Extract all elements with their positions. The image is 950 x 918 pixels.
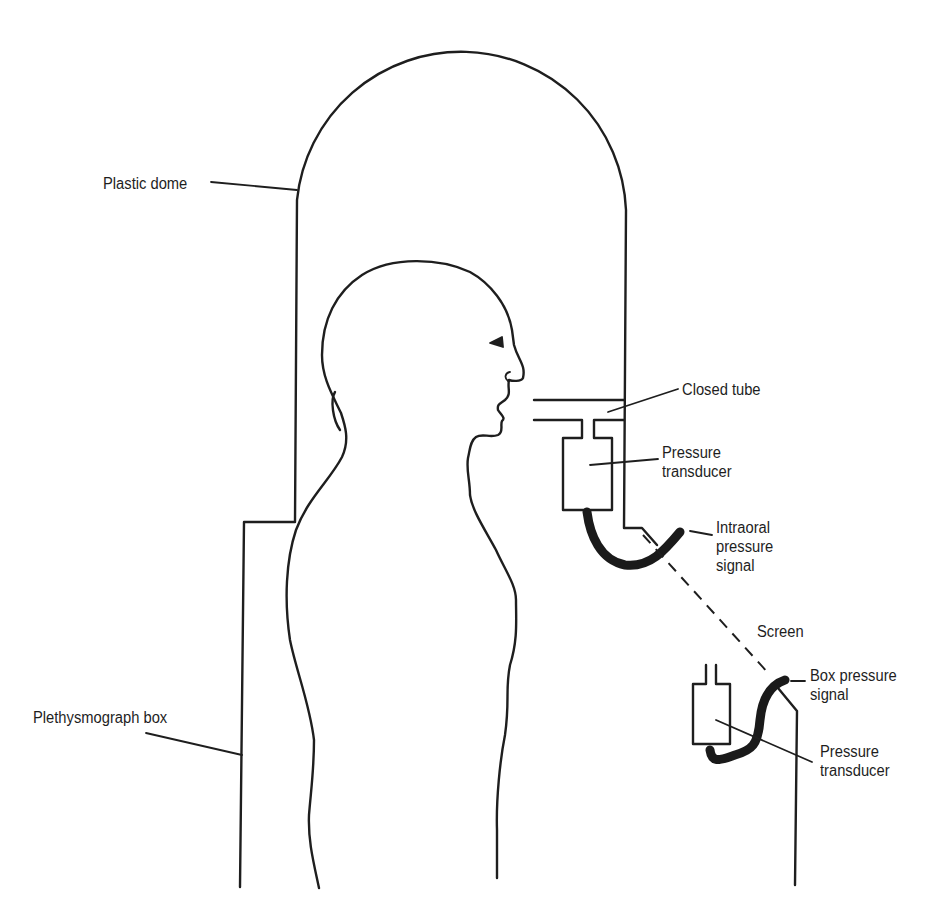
plethysmograph-box-outline [240,52,657,887]
eye [490,337,503,347]
box-transducer [693,665,730,744]
leader-plethysmograph-box [146,733,242,755]
label-intraoral-signal: Intraoral pressure signal [716,518,773,575]
label-pressure-transducer-bottom: Pressure transducer [820,742,890,780]
label-box-pressure-signal: Box pressure signal [810,666,897,704]
leader-plastic-dome [211,182,297,190]
box-hose [710,680,785,760]
label-pressure-transducer-top: Pressure transducer [662,443,732,481]
intraoral-hose [587,512,680,565]
label-plastic-dome: Plastic dome [103,174,187,193]
label-closed-tube: Closed tube [682,380,761,399]
label-screen: Screen [757,622,804,641]
leader-intraoral-signal [690,531,712,535]
human-figure [287,261,524,888]
label-plethysmograph-box: Plethysmograph box [33,708,167,727]
transducer-left-wall [534,420,624,510]
plethysmograph-diagram [0,0,950,918]
box-right-lower-wall [778,688,797,885]
